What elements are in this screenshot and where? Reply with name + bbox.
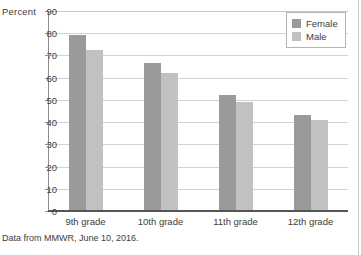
y-axis-line [48,11,49,211]
y-tick-label: 40 [17,117,57,128]
bar-female-10th-grade [144,63,161,211]
y-tick-label: 0 [17,206,57,217]
y-tick-label: 30 [17,139,57,150]
bar-male-12th-grade [311,120,328,211]
x-tick-label: 11th grade [213,216,258,227]
legend-item-male: Male [292,30,338,43]
y-tick-label: 20 [17,161,57,172]
y-tick-label: 60 [17,72,57,83]
source-note: Data from MMWR, June 10, 2016. [2,233,139,243]
y-tick-label: 50 [17,94,57,105]
bar-female-12th-grade [294,115,311,211]
chart-figure: Percent 9080706050403020100 9th grade10t… [0,0,361,255]
legend-item-female: Female [292,17,338,30]
bar-female-9th-grade [69,35,86,211]
legend-label: Female [306,18,338,29]
x-tick-label: 9th grade [65,216,105,227]
y-tick-label: 70 [17,50,57,61]
chart-legend: FemaleMale [286,12,346,48]
x-tick-label: 10th grade [138,216,183,227]
bar-male-10th-grade [161,73,178,211]
legend-label: Male [306,31,327,42]
bar-female-11th-grade [219,95,236,211]
x-tick-label: 12th grade [288,216,333,227]
legend-swatch-female-icon [292,19,301,28]
legend-swatch-male-icon [292,32,301,41]
page-edge-rule [358,0,359,255]
y-tick-label: 90 [17,6,57,17]
x-axis-line [48,210,348,212]
bar-male-9th-grade [86,50,103,211]
bar-male-11th-grade [236,102,253,211]
y-tick-label: 80 [17,28,57,39]
y-tick-label: 10 [17,183,57,194]
